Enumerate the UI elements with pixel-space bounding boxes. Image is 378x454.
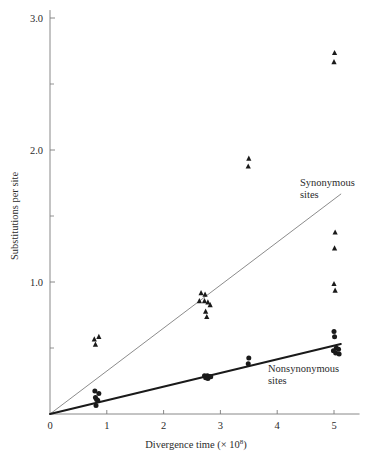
series-label-synonymous: Synonymous (300, 177, 355, 188)
data-point-circle (336, 347, 341, 352)
data-point-circle (246, 355, 251, 360)
data-point-triangle (333, 287, 338, 292)
regression-line-group (50, 194, 341, 414)
x-tick-label: 4 (275, 420, 281, 431)
data-point-circle (246, 361, 251, 366)
regression-line-triangle (50, 194, 341, 414)
data-point-triangle (331, 281, 336, 286)
data-point-triangle (333, 229, 338, 234)
data-point-triangle (96, 334, 101, 339)
data-point-circle (332, 334, 337, 339)
series-label-nonsynonymous: Nonsynonymous (268, 363, 339, 374)
data-point-circle (208, 374, 213, 379)
data-point-triangle (246, 155, 251, 160)
data-point-triangle (246, 163, 251, 168)
x-tick-label: 5 (331, 420, 336, 431)
y-tick-label: 1.0 (30, 277, 43, 288)
x-tick-label: 3 (218, 420, 223, 431)
regression-line-circle (50, 344, 341, 414)
axis-title-group: Substitutions per siteDivergence time (×… (9, 172, 247, 451)
data-point-circle (94, 403, 99, 408)
data-point-triangle (203, 309, 208, 314)
data-point-circle (96, 391, 101, 396)
data-point-triangle (204, 314, 209, 319)
data-point-triangle (198, 290, 203, 295)
data-point-circle (337, 351, 342, 356)
data-point-circle (95, 398, 100, 403)
data-point-triangle (331, 59, 336, 64)
series-annotation-group: SynonymoussitesNonsynonymoussites (268, 177, 355, 386)
data-point-triangle (93, 342, 98, 347)
data-point-triangle (332, 245, 337, 250)
axis-group (50, 10, 360, 414)
y-tick-label: 2.0 (30, 145, 43, 156)
chart-canvas: 0123451.02.03.0 SynonymoussitesNonsynony… (0, 0, 378, 454)
x-tick-label: 2 (161, 420, 166, 431)
data-point-triangle (332, 50, 337, 55)
series-label-nonsynonymous-line2: sites (268, 375, 287, 386)
x-tick-label: 1 (104, 420, 109, 431)
data-point-triangle (92, 336, 97, 341)
x-tick-label: 0 (47, 420, 52, 431)
data-point-circle (332, 329, 337, 334)
scatter-chart-figure: 0123451.02.03.0 SynonymoussitesNonsynony… (0, 0, 378, 454)
data-point-triangle (197, 298, 202, 303)
x-axis-title: Divergence time (× 108) (145, 438, 247, 451)
y-tick-label: 3.0 (30, 13, 43, 24)
y-axis-title: Substitutions per site (9, 172, 20, 260)
series-label-synonymous-line2: sites (300, 189, 319, 200)
data-point-triangle (202, 291, 207, 296)
